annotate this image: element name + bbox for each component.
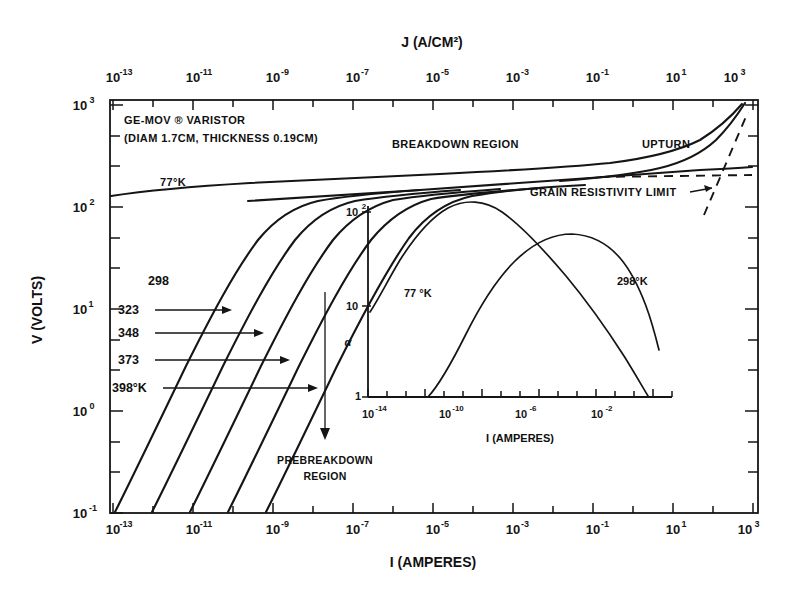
y-tick-exp: 3 bbox=[89, 95, 94, 105]
inset-y-axis-label: α bbox=[345, 336, 353, 348]
inset-y-tick-1: 1 bbox=[355, 390, 361, 402]
top-tick-exp: 1 bbox=[681, 67, 686, 77]
temperature-label-373: 373 bbox=[118, 353, 139, 367]
bottom-tick-exp: 1 bbox=[681, 519, 686, 529]
bottom-tick-exp: -3 bbox=[521, 519, 529, 529]
top-tick-exp: -5 bbox=[441, 67, 449, 77]
top-tick-base: 10 bbox=[506, 70, 520, 85]
bottom-tick-base: 10 bbox=[506, 522, 520, 537]
top-tick-exp: -9 bbox=[281, 67, 289, 77]
top-axis-label: J (A/CM²) bbox=[401, 34, 462, 50]
inset-x-base: 10 bbox=[362, 408, 374, 420]
inset-x-axis-label: I (AMPERES) bbox=[486, 432, 554, 444]
bottom-tick-exp: -1 bbox=[601, 519, 609, 529]
inset-y-base: 10 bbox=[346, 206, 358, 218]
top-tick-exp: -13 bbox=[119, 67, 132, 77]
y-axis-label: V (VOLTS) bbox=[29, 276, 45, 344]
top-tick-base: 10 bbox=[586, 70, 600, 85]
bottom-tick-exp: -7 bbox=[361, 519, 369, 529]
bottom-tick-base: 10 bbox=[266, 522, 280, 537]
prebreakdown-label-line2: REGION bbox=[303, 470, 346, 482]
temperature-label-348: 348 bbox=[118, 326, 139, 340]
prebreakdown-label-line1: PREBREAKDOWN bbox=[277, 454, 373, 466]
inset-x-exp: -10 bbox=[452, 404, 464, 413]
bottom-tick-base: 10 bbox=[106, 522, 120, 537]
top-tick-base: 10 bbox=[266, 70, 280, 85]
temperature-label-398: 398°K bbox=[112, 381, 147, 395]
x-axis-label: I (AMPERES) bbox=[390, 554, 476, 570]
inset-x-exp: -6 bbox=[529, 404, 537, 413]
y-tick-exp: 2 bbox=[89, 197, 94, 207]
bottom-tick-exp: -11 bbox=[200, 519, 213, 529]
bottom-tick-exp: 3 bbox=[754, 519, 759, 529]
inset-label-77k: 77 °K bbox=[404, 287, 432, 299]
inset-x-exp: -2 bbox=[605, 404, 613, 413]
bottom-tick-exp: -13 bbox=[119, 519, 132, 529]
inset-x-exp: -14 bbox=[375, 404, 387, 413]
top-tick-base: 10 bbox=[346, 70, 360, 85]
inset-x-base: 10 bbox=[515, 408, 527, 420]
inset-y-exp: 2 bbox=[362, 202, 367, 211]
top-tick-base: 10 bbox=[666, 70, 680, 85]
y-tick-base: 10 bbox=[73, 404, 87, 419]
temperature-label-298: 298 bbox=[148, 274, 169, 288]
bottom-tick-base: 10 bbox=[666, 522, 680, 537]
y-tick-base: 10 bbox=[73, 506, 87, 521]
top-tick-exp: 3 bbox=[740, 67, 745, 77]
y-tick-exp: 0 bbox=[89, 401, 94, 411]
top-tick-base: 10 bbox=[426, 70, 440, 85]
y-tick-exp: 1 bbox=[88, 299, 93, 309]
inset-y-tick-10: 10 bbox=[346, 300, 358, 312]
top-tick-exp: -11 bbox=[200, 67, 213, 77]
varistor-iv-characteristic-chart: J (A/CM²) 10 -13 10 -11 10 -9 10 -7 10 -… bbox=[0, 0, 792, 596]
device-caption-line2: (DIAM 1.7CM, THICKNESS 0.19CM) bbox=[124, 132, 318, 144]
inset-x-base: 10 bbox=[591, 408, 603, 420]
bottom-tick-base: 10 bbox=[426, 522, 440, 537]
bottom-tick-base: 10 bbox=[738, 522, 752, 537]
curve-label-77k: 77°K bbox=[160, 176, 186, 188]
top-tick-exp: -7 bbox=[361, 67, 369, 77]
top-tick-exp: -1 bbox=[601, 67, 609, 77]
top-tick-exp: -3 bbox=[521, 67, 529, 77]
breakdown-region-label: BREAKDOWN REGION bbox=[392, 138, 519, 150]
bottom-tick-base: 10 bbox=[346, 522, 360, 537]
bottom-tick-exp: -5 bbox=[441, 519, 449, 529]
upturn-label: UPTURN bbox=[642, 138, 690, 150]
y-tick-base: 10 bbox=[73, 200, 87, 215]
bottom-tick-exp: -9 bbox=[281, 519, 289, 529]
top-tick-base: 10 bbox=[724, 70, 738, 85]
top-tick-base: 10 bbox=[186, 70, 200, 85]
bottom-tick-base: 10 bbox=[586, 522, 600, 537]
grain-resistivity-limit-label: GRAIN RESISTIVITY LIMIT bbox=[530, 186, 677, 198]
y-tick-base: 10 bbox=[73, 302, 87, 317]
y-tick-exp: -1 bbox=[89, 503, 97, 513]
inset-x-base: 10 bbox=[439, 408, 451, 420]
y-tick-base: 10 bbox=[73, 98, 87, 113]
inset-label-298k: 298°K bbox=[617, 275, 648, 287]
bottom-tick-base: 10 bbox=[186, 522, 200, 537]
temperature-label-323: 323 bbox=[118, 303, 139, 317]
device-caption-line1: GE-MOV ® VARISTOR bbox=[124, 114, 245, 126]
top-tick-base: 10 bbox=[106, 70, 120, 85]
figure-container: J (A/CM²) 10 -13 10 -11 10 -9 10 -7 10 -… bbox=[0, 0, 792, 596]
